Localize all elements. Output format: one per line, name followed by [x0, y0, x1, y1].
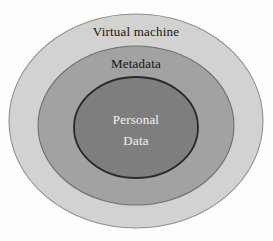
- layer-ellipse-personal-data[interactable]: [74, 77, 198, 178]
- label-virtual-machine: Virtual machine: [93, 24, 179, 39]
- label-personal-data-line1: Personal: [113, 112, 160, 127]
- diagram-canvas: Virtual machine Metadata Personal Data: [0, 0, 273, 241]
- concentric-ellipse-figure: Virtual machine Metadata Personal Data: [0, 0, 273, 241]
- label-metadata: Metadata: [111, 56, 161, 71]
- label-personal-data-line2: Data: [123, 133, 148, 148]
